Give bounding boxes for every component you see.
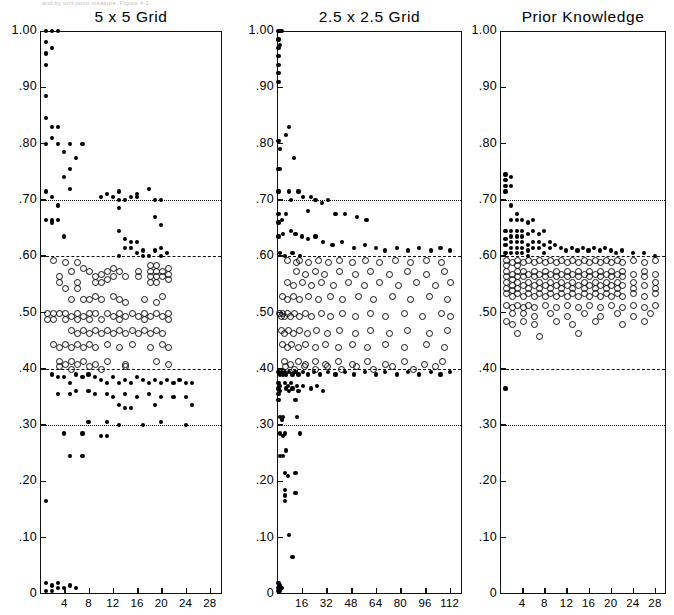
data-point-open	[509, 321, 516, 328]
y-tick-label: .30	[461, 417, 497, 431]
x-tick-mark	[522, 588, 524, 594]
data-point-filled	[509, 234, 513, 238]
data-point-filled	[520, 218, 524, 222]
y-tick-mark	[500, 481, 506, 483]
data-point-open	[630, 302, 637, 309]
data-point-open	[652, 271, 659, 278]
y-tick-mark	[500, 143, 506, 145]
y-tick-label: .80	[461, 136, 497, 150]
data-point-filled	[520, 234, 524, 238]
data-point-filled	[548, 246, 552, 250]
data-point-filled	[515, 218, 519, 222]
data-point-open	[564, 313, 571, 320]
y-tick-label: 0	[461, 586, 497, 600]
data-point-filled	[575, 248, 579, 252]
data-point-open	[614, 310, 621, 317]
data-point-open	[647, 310, 654, 317]
y-tick-label: 1.00	[461, 23, 497, 37]
data-point-filled	[592, 246, 596, 250]
y-tick-label: .90	[461, 79, 497, 93]
data-point-filled	[526, 248, 530, 252]
data-point-filled	[537, 246, 541, 250]
x-tick-mark	[544, 588, 546, 594]
data-point-filled	[509, 203, 513, 207]
data-point-filled	[509, 246, 513, 250]
figure-container: and by unit point measure, Figure 4-1 5 …	[0, 0, 674, 615]
reference-line-03	[501, 425, 665, 426]
data-point-filled	[515, 229, 519, 233]
data-point-filled	[526, 232, 530, 236]
y-tick-label: .60	[461, 248, 497, 262]
data-point-filled	[503, 178, 507, 182]
data-point-open	[531, 313, 538, 320]
data-point-filled	[537, 232, 541, 236]
data-point-filled	[581, 246, 585, 250]
data-point-open	[652, 302, 659, 309]
y-tick-label: .10	[461, 530, 497, 544]
data-point-filled	[515, 240, 519, 244]
data-point-open	[581, 310, 588, 317]
data-point-filled	[570, 246, 574, 250]
x-tick-mark	[633, 588, 635, 594]
y-tick-mark	[500, 312, 506, 314]
data-point-filled	[609, 248, 613, 252]
data-point-open	[630, 257, 637, 264]
data-point-filled	[503, 229, 507, 233]
data-point-filled	[515, 212, 519, 216]
data-point-filled	[509, 229, 513, 233]
data-point-open	[630, 271, 637, 278]
data-point-filled	[603, 246, 607, 250]
data-point-open	[542, 302, 549, 309]
data-point-filled	[503, 172, 507, 176]
data-point-open	[564, 302, 571, 309]
x-tick-mark	[655, 588, 657, 594]
data-point-filled	[503, 189, 507, 193]
y-tick-mark	[500, 537, 506, 539]
data-point-filled	[509, 184, 513, 188]
x-tick-mark	[589, 588, 591, 594]
data-point-filled	[537, 240, 541, 244]
data-point-open	[608, 302, 615, 309]
data-point-filled	[509, 218, 513, 222]
x-tick-label: 28	[639, 597, 671, 609]
data-point-filled	[503, 243, 507, 247]
panel-title: Prior Knowledge	[500, 8, 666, 26]
y-tick-label: .20	[461, 473, 497, 487]
x-tick-mark	[611, 588, 613, 594]
data-point-filled	[520, 246, 524, 250]
data-point-open	[514, 330, 521, 337]
y-tick-label: .50	[461, 305, 497, 319]
reference-line-04	[501, 369, 665, 370]
data-point-open	[536, 333, 543, 340]
data-point-filled	[548, 240, 552, 244]
data-point-open	[509, 310, 516, 317]
panel-3: Prior Knowledge1.00.90.80.70.60.50.40.30…	[0, 0, 674, 615]
x-tick-mark	[566, 588, 568, 594]
data-point-filled	[515, 234, 519, 238]
data-point-filled	[598, 248, 602, 252]
data-point-open	[586, 302, 593, 309]
data-point-open	[575, 330, 582, 337]
data-point-open	[520, 310, 527, 317]
y-tick-label: .70	[461, 192, 497, 206]
y-tick-label: .40	[461, 361, 497, 375]
data-point-filled	[526, 220, 530, 224]
reference-line-07	[501, 200, 665, 201]
data-point-filled	[515, 246, 519, 250]
y-tick-mark	[500, 87, 506, 89]
data-point-open	[531, 321, 538, 328]
data-point-filled	[620, 248, 624, 252]
data-point-filled	[526, 243, 530, 247]
data-point-open	[652, 257, 659, 264]
data-point-filled	[503, 386, 507, 390]
data-point-filled	[503, 184, 507, 188]
data-point-filled	[559, 246, 563, 250]
data-point-filled	[586, 248, 590, 252]
data-point-filled	[531, 218, 535, 222]
